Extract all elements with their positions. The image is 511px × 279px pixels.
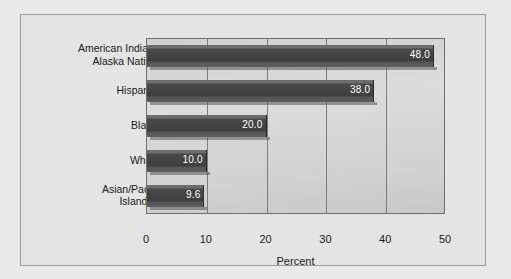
x-tick-label-20: 20 [246, 233, 286, 246]
category-label-hispanics: Hispanics [32, 84, 162, 97]
bar-value-whites: 10.0 [177, 154, 203, 166]
y-axis-category-labels: American Indians/ Alaska Natives Hispani… [29, 38, 162, 214]
bar-value-hispanics: 38.0 [344, 84, 370, 96]
bar-american-indians[interactable] [147, 45, 434, 67]
x-tick-label-40: 40 [365, 233, 405, 246]
bar-hispanics[interactable] [147, 80, 374, 102]
bar-value-asian-pacific-islanders: 9.6 [174, 189, 200, 201]
category-label-asian-pacific-islanders: Asian/Pacific Islanders [32, 183, 162, 208]
x-tick-label-0: 0 [126, 233, 166, 246]
x-tick-label-30: 30 [305, 233, 345, 246]
x-tick-label-10: 10 [186, 233, 226, 246]
chart-frame: American Indians/ Alaska Natives Hispani… [20, 14, 486, 266]
category-label-blacks: Blacks [32, 119, 162, 132]
category-label-whites: Whites [32, 154, 162, 167]
x-tick-label-50: 50 [425, 233, 465, 246]
category-label-american-indians: American Indians/ Alaska Natives [32, 42, 162, 67]
bar-shadow [150, 102, 377, 105]
bar-shadow [150, 172, 210, 175]
bar-value-blacks: 20.0 [237, 119, 263, 131]
bar-shadow [150, 137, 270, 140]
chart-figure: American Indians/ Alaska Natives Hispani… [0, 0, 511, 279]
bar-shadow [150, 207, 207, 210]
plot-area: 48.0 38.0 20.0 10.0 9.6 [146, 38, 445, 214]
x-axis-title: Percent [146, 255, 445, 267]
bar-shadow [150, 67, 437, 70]
bar-value-american-indians: 48.0 [404, 49, 430, 61]
